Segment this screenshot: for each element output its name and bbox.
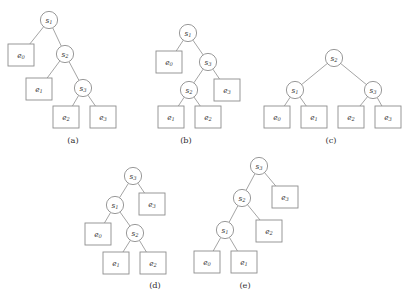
tree-edge-e-s3-s2 xyxy=(246,174,255,191)
tree-edge-d-s1-s2 xyxy=(120,212,130,226)
tree-node-c-s1[interactable]: s1 xyxy=(286,81,303,98)
tree-figure: s1e0s2e1s3e2e3(a)s1e0s3s2e3e1e2(b)s2s1s3… xyxy=(0,0,407,301)
panel-caption-c: (c) xyxy=(326,135,337,145)
tree-edge-c-s2-s1 xyxy=(302,63,328,84)
tree-edge-e-s3-e3 xyxy=(265,173,276,186)
tree-node-a-s3[interactable]: s3 xyxy=(74,79,91,96)
tree-node-b-e1[interactable]: e1 xyxy=(158,106,184,128)
tree-node-d-e1[interactable]: e1 xyxy=(103,252,129,274)
tree-edge-c-s2-s3 xyxy=(341,63,367,84)
tree-node-a-e2[interactable]: e2 xyxy=(53,106,79,128)
tree-node-b-e2[interactable]: e2 xyxy=(195,106,221,128)
tree-edge-c-s3-e3 xyxy=(377,98,382,106)
tree-edge-e-s2-e2 xyxy=(247,205,260,220)
tree-node-a-s1[interactable]: s1 xyxy=(40,11,57,28)
tree-node-e-s3[interactable]: s3 xyxy=(250,157,267,174)
tree-node-e-s1[interactable]: s1 xyxy=(216,221,233,238)
tree-edge-e-s1-e1 xyxy=(229,237,237,251)
tree-edge-d-s3-e3 xyxy=(138,183,145,193)
tree-node-c-s3[interactable]: s3 xyxy=(364,81,381,98)
tree-node-e-e2[interactable]: e2 xyxy=(256,220,282,242)
panel-caption-a: (a) xyxy=(67,135,78,145)
tree-edge-b-s1-e0 xyxy=(176,40,183,51)
tree-node-e-e3[interactable]: e3 xyxy=(272,186,298,208)
tree-node-a-e1[interactable]: e1 xyxy=(26,78,52,100)
tree-node-c-s2[interactable]: s2 xyxy=(325,49,342,66)
tree-node-d-s3[interactable]: s3 xyxy=(124,167,141,184)
tree-edge-b-s3-s2 xyxy=(194,69,203,83)
tree-edge-b-s2-e2 xyxy=(194,97,200,106)
tree-edge-a-s2-s3 xyxy=(69,62,79,81)
tree-edge-d-s3-s1 xyxy=(120,183,129,197)
tree-node-d-e3[interactable]: e3 xyxy=(139,193,165,215)
tree-edge-a-s1-s2 xyxy=(53,28,62,46)
tree-node-a-e0[interactable]: e0 xyxy=(8,44,34,66)
tree-panel-c: s2s1s3e0e1e2e3(c) xyxy=(264,49,401,145)
tree-edge-a-s3-e3 xyxy=(88,95,96,106)
tree-edge-e-s1-e0 xyxy=(213,238,221,252)
panel-caption-b: (b) xyxy=(180,135,192,145)
tree-node-d-s1[interactable]: s1 xyxy=(106,196,123,213)
tree-node-c-e1[interactable]: e1 xyxy=(301,106,327,128)
tree-edge-d-s2-e1 xyxy=(123,240,130,252)
panel-caption-e: (e) xyxy=(239,280,250,290)
tree-edge-c-s1-e1 xyxy=(300,97,306,106)
tree-edge-a-s3-e2 xyxy=(72,95,78,106)
tree-panel-d: s3s1e3e0s2e1e2(d) xyxy=(85,167,166,290)
tree-panel-a: s1e0s2e1s3e2e3(a) xyxy=(8,11,116,145)
tree-edge-a-s1-e0 xyxy=(30,27,44,44)
tree-node-c-e0[interactable]: e0 xyxy=(264,106,290,128)
tree-node-e-s2[interactable]: s2 xyxy=(233,189,250,206)
tree-edge-b-s1-s3 xyxy=(193,40,203,55)
tree-node-b-e0[interactable]: e0 xyxy=(156,51,182,73)
tree-diagram-canvas: s1e0s2e1s3e2e3(a)s1e0s3s2e3e1e2(b)s2s1s3… xyxy=(0,0,407,301)
tree-edge-c-s3-e2 xyxy=(360,97,368,106)
tree-edge-d-s2-e2 xyxy=(139,240,146,252)
tree-node-c-e3[interactable]: e3 xyxy=(375,106,401,128)
tree-edge-d-s1-e0 xyxy=(104,212,110,223)
tree-node-d-s2[interactable]: s2 xyxy=(126,224,143,241)
tree-node-d-e0[interactable]: e0 xyxy=(85,223,111,245)
panel-caption-d: (d) xyxy=(149,280,161,290)
tree-node-c-e2[interactable]: e2 xyxy=(338,106,364,128)
tree-node-d-e2[interactable]: e2 xyxy=(140,252,166,274)
tree-node-a-e3[interactable]: e3 xyxy=(90,106,116,128)
tree-edge-b-s2-e1 xyxy=(178,97,184,106)
tree-node-e-e0[interactable]: e0 xyxy=(194,251,220,273)
tree-node-b-e3[interactable]: e3 xyxy=(214,79,240,101)
tree-edge-b-s3-e3 xyxy=(213,69,220,79)
tree-panel-b: s1e0s3s2e3e1e2(b) xyxy=(156,24,240,145)
tree-node-b-s1[interactable]: s1 xyxy=(179,24,196,41)
tree-edge-c-s1-e0 xyxy=(284,97,290,106)
tree-edge-a-s2-e1 xyxy=(47,61,60,78)
tree-node-e-e1[interactable]: e1 xyxy=(231,251,257,273)
tree-node-a-s2[interactable]: s2 xyxy=(56,45,73,62)
tree-panel-e: s3s2e3s1e2e0e1(e) xyxy=(194,157,298,290)
tree-node-b-s2[interactable]: s2 xyxy=(180,81,197,98)
tree-node-b-s3[interactable]: s3 xyxy=(199,53,216,70)
tree-edge-e-s2-s1 xyxy=(229,206,238,223)
